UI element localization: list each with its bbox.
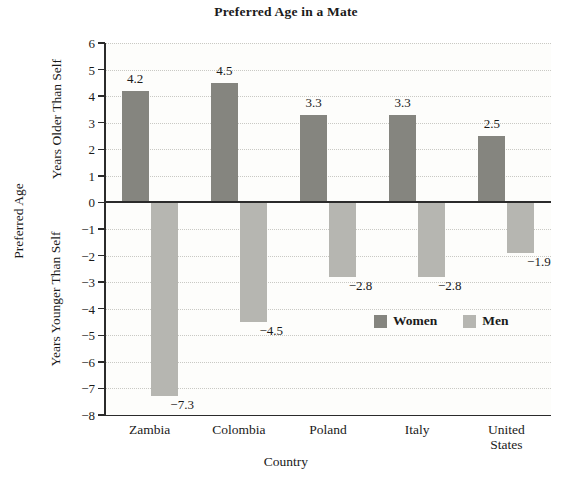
bar-value-label: 3.3	[380, 96, 426, 109]
bar-women	[122, 91, 149, 203]
bar-value-label: −4.5	[248, 324, 294, 337]
bar-women	[300, 115, 327, 203]
bar-men	[240, 202, 267, 322]
x-axis-line	[104, 415, 551, 417]
bar-women	[389, 115, 416, 203]
legend-swatch-men-icon	[463, 315, 476, 328]
legend-label-men: Men	[482, 313, 508, 329]
y-axis-tick-label: −4	[69, 302, 95, 315]
bar-value-label: 2.5	[469, 117, 515, 130]
bar-women	[211, 83, 238, 203]
bar-value-label: 3.3	[291, 96, 337, 109]
chart-title: Preferred Age in a Mate	[0, 4, 572, 20]
y-axis-tick-label: −7	[69, 382, 95, 395]
y-axis-tick-label: 1	[69, 169, 95, 182]
gridline	[105, 43, 551, 45]
x-axis-category-label: Poland	[283, 422, 373, 437]
bar-men	[507, 202, 534, 252]
x-axis-title: Country	[0, 454, 572, 470]
x-axis-category-label: United States	[461, 422, 551, 452]
chart-container: Preferred Age in a Mate 6543210−1−2−3−4−…	[0, 0, 572, 479]
bar-value-label: −1.9	[516, 255, 562, 268]
y-axis-tick-label: −8	[69, 409, 95, 422]
y-axis-tick-label: 3	[69, 116, 95, 129]
y-axis-lower-label: Years Younger Than Self	[48, 204, 66, 394]
bar-value-label: −2.8	[427, 279, 473, 292]
y-axis-tick-label: 6	[69, 37, 95, 50]
bar-value-label: −7.3	[159, 398, 205, 411]
legend-item-men: Men	[463, 313, 508, 329]
y-axis-line	[104, 43, 106, 416]
x-axis-category-label: Zambia	[105, 422, 195, 437]
legend-swatch-women-icon	[374, 315, 387, 328]
y-axis-title: Preferred Age	[11, 141, 29, 301]
x-axis-category-label: Colombia	[194, 422, 284, 437]
y-axis-tick-label: −2	[69, 249, 95, 262]
bar-men	[418, 202, 445, 276]
y-axis-upper-label: Years Older Than Self	[49, 39, 67, 199]
y-axis-tick-label: 5	[69, 63, 95, 76]
x-axis-category-label: Italy	[372, 422, 462, 437]
gridline	[105, 70, 551, 72]
y-axis-tick-label: −3	[69, 276, 95, 289]
y-axis-tick-label: 4	[69, 90, 95, 103]
y-axis-tick-label: −1	[69, 223, 95, 236]
y-axis-tick-label: 2	[69, 143, 95, 156]
bar-value-label: −2.8	[338, 279, 384, 292]
y-axis-tick-label: −6	[69, 355, 95, 368]
bar-value-label: 4.2	[112, 72, 158, 85]
bar-men	[151, 202, 178, 396]
y-axis-tick-label: 0	[69, 196, 95, 209]
chart-legend: Women Men	[374, 313, 509, 329]
zero-baseline	[104, 201, 551, 203]
legend-item-women: Women	[374, 313, 437, 329]
y-axis-tick-label: −5	[69, 329, 95, 342]
bar-value-label: 4.5	[201, 64, 247, 77]
bar-men	[329, 202, 356, 276]
bar-women	[478, 136, 505, 202]
legend-label-women: Women	[393, 313, 437, 329]
